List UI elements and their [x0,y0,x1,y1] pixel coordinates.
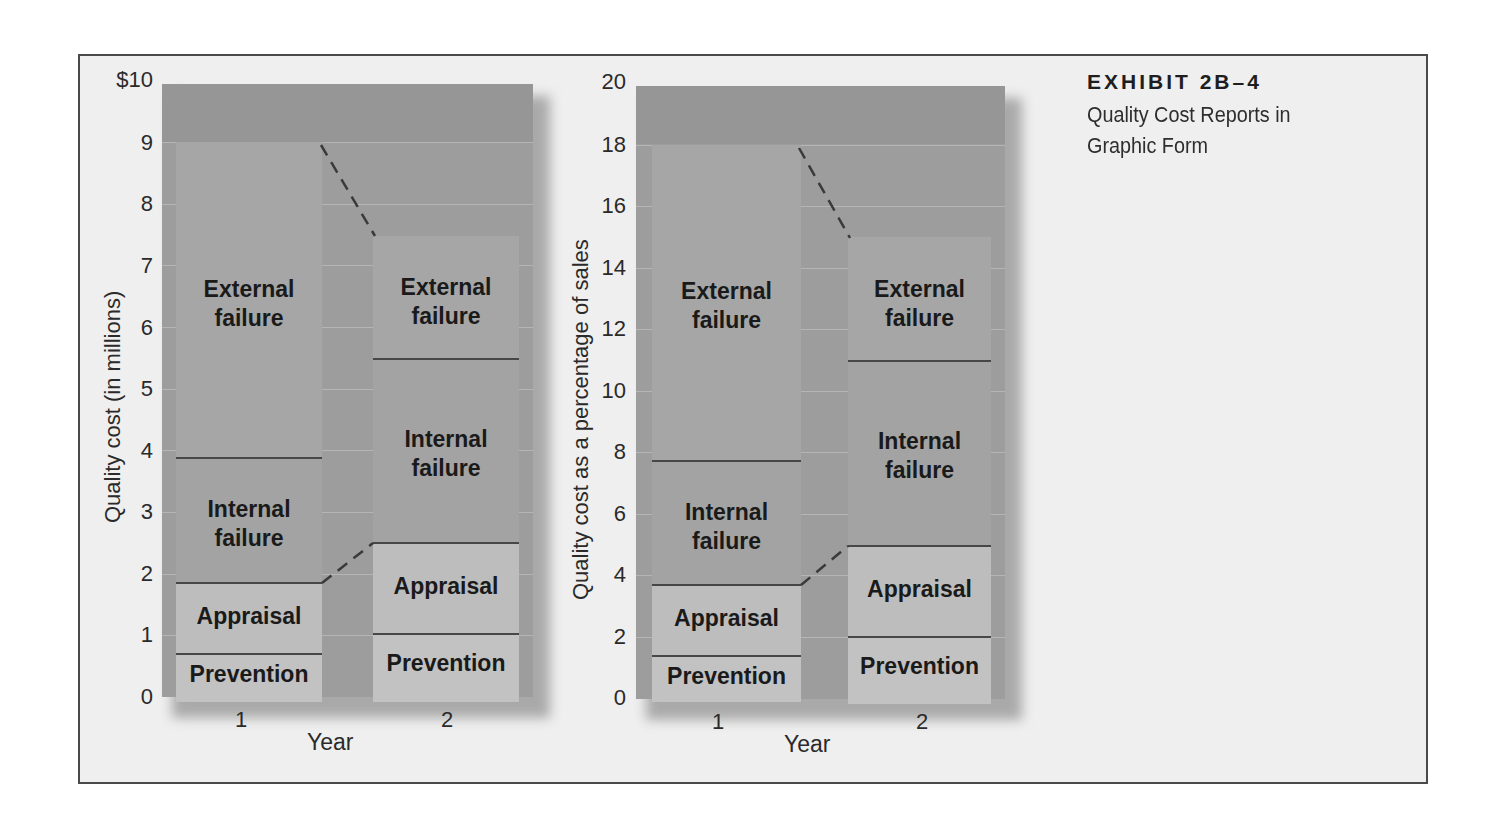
exhibit-title: Quality Cost Reports in Graphic Form [1087,99,1321,161]
x-axis-label: Year [784,731,830,758]
x-tick: 2 [907,709,937,735]
x-tick: 1 [703,709,733,735]
exhibit-number: EXHIBIT 2B–4 [1087,70,1262,94]
